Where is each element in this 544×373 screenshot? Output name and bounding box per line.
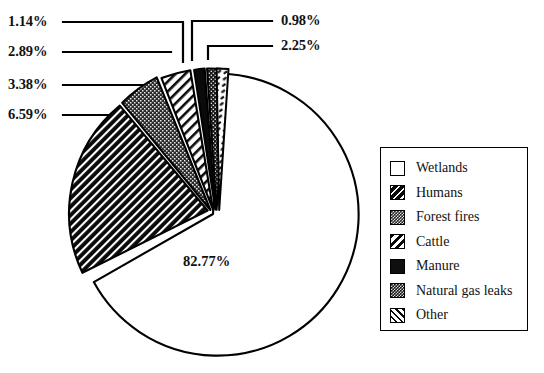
legend-item-manure[interactable]: Manure xyxy=(390,254,527,279)
callout-label-other: 0.98% xyxy=(281,12,320,29)
leader-line-other xyxy=(192,21,272,60)
legend-swatch-natural-gas-leaks-icon xyxy=(390,283,405,298)
legend-label-forest-fires: Forest fires xyxy=(416,210,479,224)
legend-label-natural-gas-leaks: Natural gas leaks xyxy=(416,284,512,298)
legend-item-cattle[interactable]: Cattle xyxy=(390,230,527,255)
legend: Wetlands Humans Forest fires Cattle Manu… xyxy=(380,147,528,331)
legend-item-other[interactable]: Other xyxy=(390,303,527,328)
slice-label-wetlands: 82.77% xyxy=(183,253,230,270)
callout-label-manure: 1.14% xyxy=(8,13,47,30)
callout-label-cattle: 2.89% xyxy=(8,43,47,60)
legend-swatch-forest-fires-icon xyxy=(390,210,405,225)
legend-swatch-humans-icon xyxy=(390,185,405,200)
legend-item-humans[interactable]: Humans xyxy=(390,181,527,206)
legend-item-forest-fires[interactable]: Forest fires xyxy=(390,205,527,230)
legend-item-natural-gas-leaks[interactable]: Natural gas leaks xyxy=(390,279,527,304)
callout-label-forest-fires: 3.38% xyxy=(8,76,47,93)
callout-label-humans: 6.59% xyxy=(8,106,47,123)
leader-line-manure xyxy=(63,22,183,62)
legend-label-wetlands: Wetlands xyxy=(416,161,468,175)
legend-swatch-wetlands-icon xyxy=(390,161,405,176)
legend-item-wetlands[interactable]: Wetlands xyxy=(390,156,527,181)
legend-label-manure: Manure xyxy=(416,259,460,273)
legend-swatch-other-icon xyxy=(390,308,405,323)
legend-swatch-manure-icon xyxy=(390,259,405,274)
legend-label-other: Other xyxy=(416,308,448,322)
callout-label-natural-gas-leaks: 2.25% xyxy=(281,37,320,54)
leader-line-natural-gas-leaks xyxy=(208,46,272,59)
legend-list: Wetlands Humans Forest fires Cattle Manu… xyxy=(381,148,527,330)
pie-slices xyxy=(69,68,359,355)
legend-label-cattle: Cattle xyxy=(416,235,449,249)
legend-label-humans: Humans xyxy=(416,186,463,200)
legend-swatch-cattle-icon xyxy=(390,234,405,249)
